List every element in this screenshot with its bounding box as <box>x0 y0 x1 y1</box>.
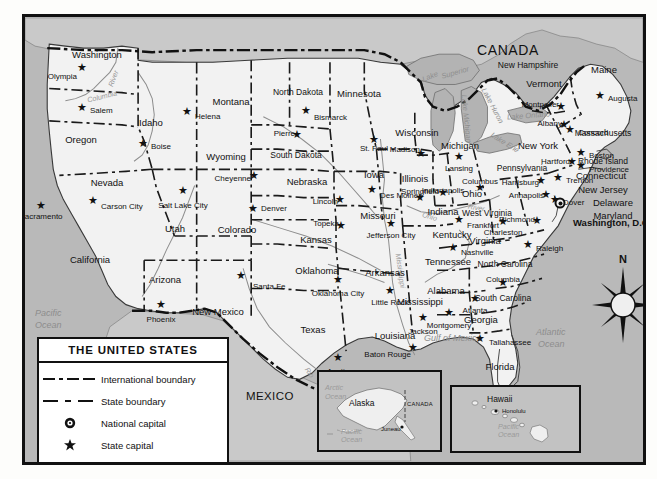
legend-title: THE UNITED STATES <box>39 339 227 363</box>
state-capital-star-sacramento[interactable]: ★ <box>36 200 46 211</box>
city-label-charleston: Charleston <box>484 229 523 237</box>
city-label-topeka: Topeka <box>313 220 339 228</box>
state-capital-star-little-rock[interactable]: ★ <box>385 285 395 296</box>
state-capital-star-montgomery[interactable]: ★ <box>444 307 454 318</box>
state-capital-symbol <box>39 438 101 452</box>
state-capital-star-oklahoma-city[interactable]: ★ <box>333 274 343 285</box>
legend-label-international-boundary: International boundary <box>101 374 196 385</box>
lake-label-2: Lake Michigan <box>460 94 473 143</box>
state-label-wisconsin: Wisconsin <box>395 128 438 138</box>
state-capital-star-phoenix[interactable]: ★ <box>156 299 166 310</box>
state-label-kentucky: Kentucky <box>432 230 471 240</box>
city-label-boise: Boise <box>151 143 171 151</box>
state-label-florida: Florida <box>485 362 514 372</box>
state-label-arkansas: Arkansas <box>365 268 405 278</box>
international-boundary-symbol <box>39 375 101 383</box>
state-capital-star-trenton[interactable]: ★ <box>553 172 563 183</box>
state-label-utah: Utah <box>165 224 185 234</box>
city-label-olympia: Olympia <box>48 73 77 81</box>
state-capital-star-st-paul[interactable]: ★ <box>369 134 379 145</box>
state-capital-star-denver[interactable]: ★ <box>248 203 258 214</box>
state-capital-star-nashville[interactable]: ★ <box>448 242 458 253</box>
map-screenshot: CANADAMEXICOPacificOceanAtlanticOceanGul… <box>0 0 657 479</box>
honolulu-dot <box>494 409 497 412</box>
city-label-columbus: Columbus <box>462 178 498 186</box>
state-capital-star-augusta[interactable]: ★ <box>595 90 605 101</box>
state-label-new-york: New York <box>518 141 558 151</box>
juneau-dot <box>400 425 403 428</box>
legend-row-national-capital: National capital <box>39 412 227 434</box>
city-label-albany: Albany <box>538 120 562 128</box>
state-label-north-dakota: North Dakota <box>273 88 323 97</box>
state-capital-star-providence[interactable]: ★ <box>576 160 586 171</box>
state-label-texas: Texas <box>301 325 326 335</box>
city-label-lansing: Lansing <box>445 165 473 173</box>
city-label-montgomery: Montgomery <box>427 322 471 330</box>
alaska-pacific-ocean-line2: Ocean <box>341 436 362 443</box>
state-label-wyoming: Wyoming <box>206 152 246 162</box>
city-label-indianapolis: Indianapolis <box>422 187 465 195</box>
state-capital-star-santa-fe[interactable]: ★ <box>236 270 246 281</box>
state-label-oregon: Oregon <box>65 135 97 145</box>
city-label-raleigh: Raleigh <box>536 245 563 253</box>
state-capital-star-salem[interactable]: ★ <box>77 102 87 113</box>
state-capital-star-carson-city[interactable]: ★ <box>88 195 98 206</box>
state-capital-star-raleigh[interactable]: ★ <box>523 239 533 250</box>
national-capital-marker[interactable] <box>555 198 566 209</box>
state-label-south-carolina: South Carolina <box>475 294 531 303</box>
city-label-dover: Dover <box>563 199 584 207</box>
hawaii-inset-label: Hawaii <box>487 395 513 404</box>
state-label-idaho: Idaho <box>139 118 163 128</box>
city-label-little-rock: Little Rock <box>371 299 408 307</box>
city-label-atlanta: Atlanta <box>463 307 488 315</box>
city-label-cheyenne: Cheyenne <box>215 175 251 183</box>
city-label-providence: Providence <box>589 166 629 174</box>
state-label-colorado: Colorado <box>218 225 257 235</box>
legend-row-state-boundary: State boundary <box>39 390 227 412</box>
alaska-inset-label: Alaska <box>349 399 375 408</box>
state-capital-star-des-moines[interactable]: ★ <box>367 184 377 195</box>
city-label-santa-fe: Santa Fe <box>253 283 285 291</box>
state-capital-star-atlanta[interactable]: ★ <box>470 293 480 304</box>
river-label-5: Rio <box>303 366 315 379</box>
state-label-vermont: Vermont <box>526 79 561 89</box>
water-label-3: Ocean <box>538 340 565 349</box>
city-label-tallahassee: Tallahassee <box>489 339 531 347</box>
state-label-new-jersey: New Jersey <box>578 185 628 195</box>
state-capital-star-jefferson-city[interactable]: ★ <box>386 218 396 229</box>
state-capital-star-charleston[interactable]: ★ <box>498 216 508 227</box>
state-boundary-symbol <box>39 397 101 405</box>
hawaii-pacific-ocean-line2: Ocean <box>498 431 519 438</box>
country-label-mexico: MEXICO <box>246 391 294 403</box>
washington-dc-label: Washington, D.C. <box>573 218 646 228</box>
state-label-minnesota: Minnesota <box>337 89 381 99</box>
state-label-nevada: Nevada <box>91 178 124 188</box>
state-capital-star-lansing[interactable]: ★ <box>454 151 464 162</box>
state-label-kansas: Kansas <box>300 235 332 245</box>
city-label-pierre: Pierre <box>274 130 295 138</box>
city-label-salt-lake-city: Salt Lake City <box>158 202 207 210</box>
state-capital-star-boston[interactable]: ★ <box>576 147 586 158</box>
state-capital-star-tallahassee[interactable]: ★ <box>475 333 485 344</box>
state-label-new-hampshire: New Hampshire <box>498 61 558 70</box>
city-label-carson-city: Carson City <box>101 203 143 211</box>
water-label-2: Atlantic <box>536 328 566 337</box>
state-capital-star-salt-lake-city[interactable]: ★ <box>178 185 188 196</box>
river-label-1: River <box>107 69 120 87</box>
country-label-canada: CANADA <box>477 43 539 57</box>
city-label-harrisburg: Harrisburg <box>502 179 539 187</box>
map-frame: CANADAMEXICOPacificOceanAtlanticOceanGul… <box>22 14 646 465</box>
city-label-boston: Boston <box>589 152 614 160</box>
legend-label-national-capital: National capital <box>101 418 166 429</box>
state-capital-star-frankfort[interactable]: ★ <box>454 214 464 225</box>
state-capital-star-austin[interactable]: ★ <box>333 352 343 363</box>
state-capital-star-bismarck[interactable]: ★ <box>301 105 311 116</box>
state-capital-star-boise[interactable]: ★ <box>138 138 148 149</box>
state-label-pennsylvania: Pennsylvania <box>497 164 548 173</box>
state-capital-star-olympia[interactable]: ★ <box>77 62 87 73</box>
state-label-washington: Washington <box>72 50 122 60</box>
state-label-virginia: Virginia <box>469 236 501 246</box>
state-capital-star-helena[interactable]: ★ <box>182 106 192 117</box>
city-label-lincoln: Lincoln <box>313 198 338 206</box>
state-label-montana: Montana <box>213 97 250 107</box>
